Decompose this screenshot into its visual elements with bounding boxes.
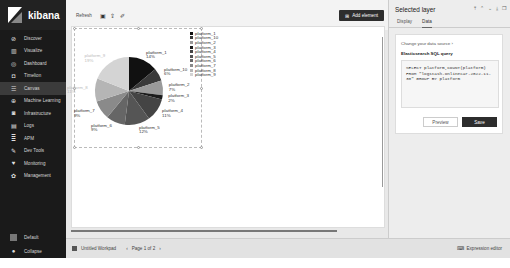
move-down-icon[interactable]: ⌄ bbox=[488, 5, 492, 12]
edit-icon[interactable]: ✐ bbox=[120, 12, 126, 18]
timelion-icon: ◘ bbox=[10, 72, 17, 79]
arrow-right-icon: › bbox=[452, 41, 453, 46]
chart-legend: platform_1platform_10platform_2platform_… bbox=[190, 31, 218, 77]
chart-icon: ▥ bbox=[10, 47, 17, 54]
space-avatar-icon bbox=[10, 234, 17, 241]
sidebar-item-label: Logs bbox=[24, 123, 34, 128]
vertical-scrollbar[interactable] bbox=[382, 37, 384, 187]
change-datasource-link[interactable]: Change your data source › bbox=[401, 41, 497, 46]
collapse-button[interactable]: ●Collapse bbox=[0, 244, 66, 258]
sidebar-item-infrastructure[interactable]: ◙Infrastructure bbox=[0, 107, 66, 120]
sidebar-item-discover[interactable]: ⊘Discover bbox=[0, 32, 66, 45]
space-selector[interactable]: Default bbox=[0, 230, 66, 244]
slice-label: platform_114% bbox=[146, 51, 167, 60]
sidebar-item-machine-learning[interactable]: ⊕Machine Learning bbox=[0, 95, 66, 108]
sidebar-item-label: Machine Learning bbox=[24, 98, 61, 103]
sql-query-input[interactable]: SELECT platform,COUNT(platform) FROM "lo… bbox=[401, 60, 499, 108]
add-element-button[interactable]: ⊞ Add element bbox=[339, 10, 384, 21]
expression-editor-toggle[interactable]: ⌨ Expression editor bbox=[457, 246, 503, 251]
panel-header: Selected layer ⤒ ⌃ ⌄ ⤓ ❐ bbox=[389, 0, 510, 18]
slice-label: platform_79% bbox=[74, 109, 95, 118]
brand[interactable]: kibana bbox=[0, 0, 66, 30]
sidebar-item-label: APM bbox=[24, 136, 34, 141]
sidebar-item-logs[interactable]: ▤Logs bbox=[0, 120, 66, 133]
horizontal-scrollbar[interactable] bbox=[71, 230, 337, 232]
legend-item[interactable]: platform_9 bbox=[190, 72, 218, 77]
sidebar-item-canvas[interactable]: ☰Canvas bbox=[0, 82, 66, 95]
logs-icon: ▤ bbox=[10, 122, 17, 129]
sidebar-item-label: Canvas bbox=[24, 86, 40, 91]
legend-swatch-icon bbox=[190, 64, 193, 67]
sidebar-item-label: Dev Tools bbox=[24, 148, 44, 153]
sidebar-item-visualize[interactable]: ▥Visualize bbox=[0, 45, 66, 58]
gear-icon: ✿ bbox=[10, 172, 17, 179]
slice-label: platform_512% bbox=[139, 126, 160, 135]
workpad-name[interactable]: Untitled Workpad bbox=[81, 246, 116, 251]
fullscreen-icon[interactable]: ▣ bbox=[100, 12, 106, 18]
move-top-icon[interactable]: ⤒ bbox=[474, 5, 476, 12]
infrastructure-icon: ◙ bbox=[10, 110, 17, 117]
sidebar-item-apm[interactable]: ≣APM bbox=[0, 132, 66, 145]
sidebar-item-timelion[interactable]: ◘Timelion bbox=[0, 70, 66, 83]
legend-swatch-icon bbox=[190, 55, 193, 58]
legend-swatch-icon bbox=[190, 32, 193, 35]
page-navigator: ‹ Page 1 of 2 › bbox=[126, 246, 165, 251]
refresh-button[interactable]: Refresh bbox=[76, 13, 92, 18]
layer-actions: ⤒ ⌃ ⌄ ⤓ ❐ bbox=[470, 5, 506, 12]
sidebar-item-monitoring[interactable]: ♥Monitoring bbox=[0, 157, 66, 170]
wrench-icon: ✎ bbox=[10, 147, 17, 154]
next-page-icon[interactable]: › bbox=[159, 246, 161, 251]
move-up-icon[interactable]: ⌃ bbox=[480, 5, 484, 12]
add-element-icon: ⊞ bbox=[345, 13, 349, 19]
ml-icon: ⊕ bbox=[10, 97, 17, 104]
nav-list: ⊘Discover ▥Visualize ◎Dashboard ◘Timelio… bbox=[0, 30, 66, 182]
legend-swatch-icon bbox=[190, 50, 193, 53]
preview-button[interactable]: Preview bbox=[423, 117, 458, 127]
datasource-editor: Change your data source › Elasticsearch … bbox=[395, 34, 503, 134]
resize-handle[interactable] bbox=[200, 146, 203, 149]
resize-handle[interactable] bbox=[200, 27, 203, 30]
sidebar-item-label: Infrastructure bbox=[24, 111, 51, 116]
sidebar: kibana ⊘Discover ▥Visualize ◎Dashboard ◘… bbox=[0, 0, 66, 258]
workpad-icon bbox=[72, 246, 77, 251]
datasource-buttons: Preview Save bbox=[401, 117, 497, 127]
clone-icon[interactable]: ❐ bbox=[502, 5, 506, 12]
collapse-label: Collapse bbox=[24, 249, 42, 254]
workpad-page[interactable]: platform_114%platform_106%platform_27%pl… bbox=[71, 26, 385, 228]
datasource-title: Elasticsearch SQL query bbox=[401, 51, 497, 56]
workpad-footer: Untitled Workpad ‹ Page 1 of 2 › ⌨ Expre… bbox=[66, 238, 510, 258]
sidebar-item-label: Timelion bbox=[24, 73, 41, 78]
page-indicator[interactable]: Page 1 of 2 bbox=[132, 246, 156, 251]
code-icon: ⌨ bbox=[457, 246, 464, 251]
legend-swatch-icon bbox=[190, 41, 193, 44]
sidebar-item-label: Discover bbox=[24, 36, 42, 41]
sidebar-item-dashboard[interactable]: ◎Dashboard bbox=[0, 57, 66, 70]
resize-handle[interactable] bbox=[137, 146, 140, 149]
sidebar-item-label: Management bbox=[24, 173, 51, 178]
expression-editor-label: Expression editor bbox=[467, 246, 503, 251]
share-icon[interactable]: ⇪ bbox=[110, 12, 116, 18]
tab-data[interactable]: Data bbox=[422, 18, 432, 28]
resize-handle[interactable] bbox=[73, 146, 76, 149]
sidebar-item-dev-tools[interactable]: ✎Dev Tools bbox=[0, 145, 66, 158]
space-label: Default bbox=[24, 235, 39, 240]
workpad-area: Refresh ▣ ⇪ ✐ ⊞ Add element platform_114 bbox=[66, 0, 388, 258]
tab-display[interactable]: Display bbox=[397, 18, 412, 28]
prev-page-icon[interactable]: ‹ bbox=[126, 246, 128, 251]
legend-swatch-icon bbox=[190, 73, 193, 76]
add-element-label: Add element bbox=[352, 13, 378, 18]
panel-title: Selected layer bbox=[395, 6, 436, 13]
slice-label: platform_411% bbox=[162, 109, 183, 118]
save-button[interactable]: Save bbox=[462, 117, 497, 127]
slice-label: platform_69% bbox=[91, 124, 112, 133]
resize-handle[interactable] bbox=[137, 27, 140, 30]
sidebar-item-management[interactable]: ✿Management bbox=[0, 170, 66, 183]
resize-handle[interactable] bbox=[200, 87, 203, 90]
collapse-icon: ● bbox=[10, 248, 17, 255]
slice-label: platform_27% bbox=[169, 83, 190, 92]
resize-handle[interactable] bbox=[73, 27, 76, 30]
heartbeat-icon: ♥ bbox=[10, 160, 17, 167]
legend-swatch-icon bbox=[190, 59, 193, 62]
legend-swatch-icon bbox=[190, 69, 193, 72]
move-bottom-icon[interactable]: ⤓ bbox=[496, 5, 498, 12]
